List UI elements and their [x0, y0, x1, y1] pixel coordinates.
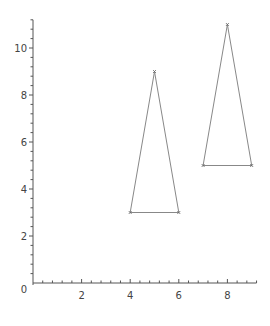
y-tick-label: 6 — [21, 137, 27, 148]
x-tick-label: 8 — [224, 290, 230, 301]
triangle-1-outline — [130, 72, 179, 213]
data-series — [129, 23, 254, 214]
x-tick-label: 2 — [78, 290, 84, 301]
axes: 24680246810 — [14, 20, 256, 301]
triangle-2-outline — [203, 25, 252, 166]
y-tick-label: 8 — [21, 90, 27, 101]
y-tick-label: 2 — [21, 231, 27, 242]
y-tick-label: 4 — [21, 184, 27, 195]
x-tick-label: 4 — [127, 290, 133, 301]
y-tick-label: 0 — [21, 284, 27, 295]
y-tick-label: 10 — [14, 43, 27, 54]
x-tick-label: 6 — [176, 290, 182, 301]
chart-plot: 24680246810 — [0, 0, 270, 326]
